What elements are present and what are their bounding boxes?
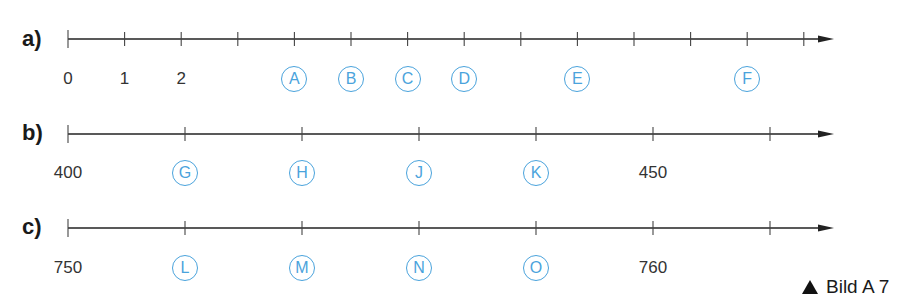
arrowhead-icon <box>818 131 834 138</box>
arrowhead-icon <box>818 225 834 232</box>
tick-number: 760 <box>639 258 667 278</box>
number-line-b <box>68 125 834 143</box>
marker-c: C <box>395 66 421 92</box>
figure-caption: Bild A 7 <box>802 276 889 298</box>
marker-k: K <box>523 160 549 186</box>
tick-number: 2 <box>176 69 185 89</box>
marker-a: A <box>281 66 307 92</box>
row-label-c: c) <box>22 214 42 240</box>
marker-f: F <box>734 66 760 92</box>
tick-number: 1 <box>120 69 129 89</box>
marker-h: H <box>289 160 315 186</box>
number-line-a <box>68 30 834 48</box>
marker-o: O <box>523 255 549 281</box>
number-lines-figure: a) b) c) 012ABCDEF400450GHJK750760LMNO B… <box>0 0 907 301</box>
caption-text: Bild A 7 <box>826 276 889 297</box>
marker-j: J <box>406 160 432 186</box>
tick-number: 0 <box>63 69 72 89</box>
triangle-icon <box>802 280 818 294</box>
marker-n: N <box>406 255 432 281</box>
arrowhead-icon <box>818 36 834 43</box>
number-line-c <box>68 219 834 237</box>
marker-d: D <box>451 66 477 92</box>
row-label-a: a) <box>22 26 42 52</box>
marker-e: E <box>564 66 590 92</box>
row-label-b: b) <box>22 120 43 146</box>
marker-m: M <box>289 255 315 281</box>
tick-number: 400 <box>54 163 82 183</box>
tick-number: 450 <box>639 163 667 183</box>
number-line-axes <box>0 0 907 301</box>
tick-number: 750 <box>54 258 82 278</box>
marker-l: L <box>172 255 198 281</box>
marker-b: B <box>338 66 364 92</box>
marker-g: G <box>172 160 198 186</box>
